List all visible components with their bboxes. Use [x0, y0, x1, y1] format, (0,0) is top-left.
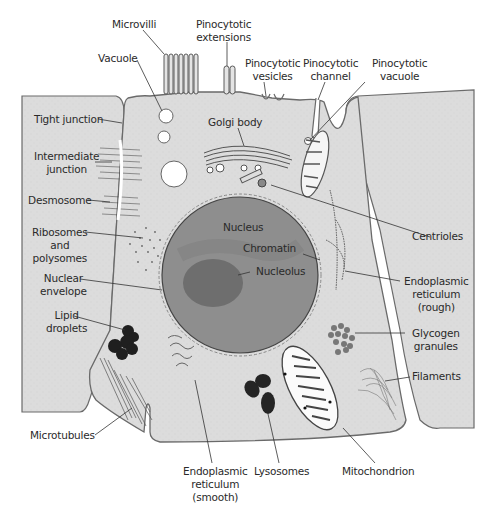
label-chromatin: Chromatin — [243, 242, 296, 255]
label-nucleus: Nucleus — [223, 221, 263, 234]
label-intermediate-junction: Intermediatejunction — [34, 150, 99, 176]
label-centrioles: Centrioles — [412, 230, 463, 243]
label-pinocytotic-channel: Pinocytoticchannel — [303, 57, 358, 83]
label-tight-junction: Tight junction — [34, 113, 103, 126]
label-nuclear-envelope: Nuclearenvelope — [40, 272, 87, 298]
label-nucleolus: Nucleolus — [256, 265, 305, 278]
label-er-smooth: Endoplasmicreticulum(smooth) — [183, 465, 248, 504]
nucleolus — [183, 259, 243, 307]
label-desmosome: Desmosome — [28, 194, 91, 207]
label-microvilli: Microvilli — [112, 18, 156, 31]
microvilli — [164, 54, 198, 94]
label-pinocytotic-vacuole: Pinocytoticvacuole — [372, 57, 427, 83]
pinocytotic-extensions — [224, 66, 235, 94]
centriole-2 — [258, 179, 266, 187]
label-er-rough: Endoplasmicreticulum(rough) — [404, 275, 469, 314]
label-microtubules: Microtubules — [30, 429, 95, 442]
label-lipid-droplets: Lipiddroplets — [46, 309, 87, 335]
label-pinocytotic-extensions: Pinocytoticextensions — [196, 18, 251, 44]
label-lysosomes: Lysosomes — [254, 465, 309, 478]
label-glycogen-granules: Glycogengranules — [412, 327, 460, 353]
label-ribosomes: Ribosomesandpolysomes — [32, 226, 88, 265]
label-filaments: Filaments — [412, 370, 461, 383]
label-vacuole: Vacuole — [98, 52, 138, 65]
label-golgi-body: Golgi body — [208, 116, 262, 129]
label-pinocytotic-vesicles: Pinocytoticvesicles — [245, 57, 300, 83]
label-mitochondrion: Mitochondrion — [342, 465, 414, 478]
